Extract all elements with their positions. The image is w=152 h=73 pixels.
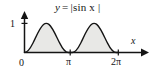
x-tick-label-2pi: 2π <box>111 57 121 67</box>
y-tick-label-1: 1 <box>10 19 15 29</box>
x-tick-label-pi: π <box>66 57 71 67</box>
x-axis-arrowhead <box>141 49 149 57</box>
origin-label: 0 <box>19 58 24 68</box>
y-axis-arrowhead <box>21 11 28 19</box>
figure-container: y=|sin x | 1 0 π 2π x <box>0 0 152 73</box>
equation-rhs: |sin x | <box>71 1 101 13</box>
equation-title: y=|sin x | <box>55 2 100 13</box>
equation-operator: = <box>60 1 70 13</box>
x-axis-label: x <box>131 36 135 46</box>
